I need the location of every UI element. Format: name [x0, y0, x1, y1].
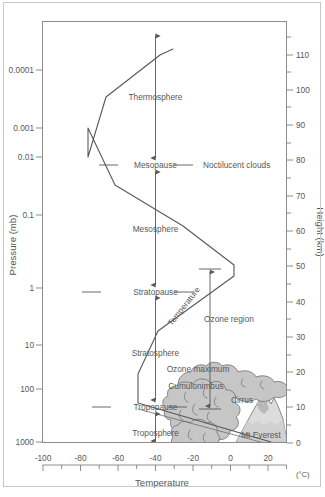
temperature-tick-2: -60: [112, 453, 124, 463]
label-noctilucent-clouds: Noctilucent clouds: [203, 160, 270, 170]
label-mesosphere: Mesosphere: [133, 224, 179, 234]
height-tick-7: 40: [296, 297, 306, 307]
height-tick-4: 70: [296, 191, 306, 201]
temperature-tick-4: -20: [187, 453, 199, 463]
temperature-tick-5: 0: [228, 453, 233, 463]
temperature-axis-minor-ticks: [62, 465, 287, 469]
label-ozone-region: Ozone region: [204, 314, 254, 324]
pressure-tick-0: 0.0001: [9, 65, 35, 75]
label-cumulonimbus: Cumulonimbus: [168, 381, 223, 391]
pressure-tick-7: 1000: [16, 437, 35, 447]
height-tick-9: 20: [296, 367, 306, 377]
label-tropopause: Tropopause: [134, 402, 178, 412]
pressure-tick-1: 0.001: [13, 123, 34, 133]
temperature-tick-labels: -100 -80 -60 -40 -20 0 20: [35, 453, 273, 463]
label-thermosphere: Thermosphere: [129, 92, 183, 102]
pressure-axis-title: Pressure (mb): [7, 215, 18, 276]
pressure-tick-2: 0.01: [18, 152, 35, 162]
pressure-tick-4: 1: [29, 283, 34, 293]
height-tick-10: 10: [296, 402, 306, 412]
label-troposphere: Troposphere: [132, 428, 179, 438]
temperature-axis-title: Temperature: [135, 477, 189, 488]
height-tick-5: 60: [296, 226, 306, 236]
height-tick-11: 0: [296, 438, 301, 448]
temperature-axis-major-ticks: [43, 465, 268, 471]
atmosphere-temperature-figure: 0.0001 0.001 0.01 0.1 1 10 100 1000 Pres…: [0, 0, 325, 497]
pressure-tick-6: 100: [20, 384, 34, 394]
temperature-tick-0: -100: [35, 453, 52, 463]
temperature-tick-6: 20: [263, 453, 273, 463]
label-stratopause: Stratopause: [133, 287, 178, 297]
label-ozone-maximum: Ozone maximum: [167, 364, 230, 374]
temperature-tick-3: -40: [150, 453, 162, 463]
label-mt-everest: Mt Everest: [241, 430, 281, 440]
height-tick-6: 50: [296, 261, 306, 271]
celsius-unit-label: (°C): [296, 470, 310, 479]
chart-svg: 0.0001 0.001 0.01 0.1 1 10 100 1000 Pres…: [0, 0, 325, 497]
height-tick-1: 100: [296, 85, 310, 95]
height-tick-labels: 110 100 90 80 70 60 50 40 30 20 10 0: [296, 50, 310, 448]
label-cirrus: Cirrus: [231, 395, 253, 405]
height-tick-2: 90: [296, 120, 306, 130]
pressure-tick-5: 10: [25, 340, 35, 350]
pressure-axis-ticks: [36, 70, 43, 442]
height-tick-3: 80: [296, 155, 306, 165]
label-mesopause: Mesopause: [134, 160, 177, 170]
height-axis-title: Height (km): [315, 207, 325, 257]
height-tick-8: 30: [296, 332, 306, 342]
height-tick-0: 110: [296, 50, 310, 60]
label-stratosphere: Stratosphere: [132, 348, 180, 358]
pressure-tick-3: 0.1: [22, 210, 34, 220]
temperature-tick-1: -80: [75, 453, 87, 463]
